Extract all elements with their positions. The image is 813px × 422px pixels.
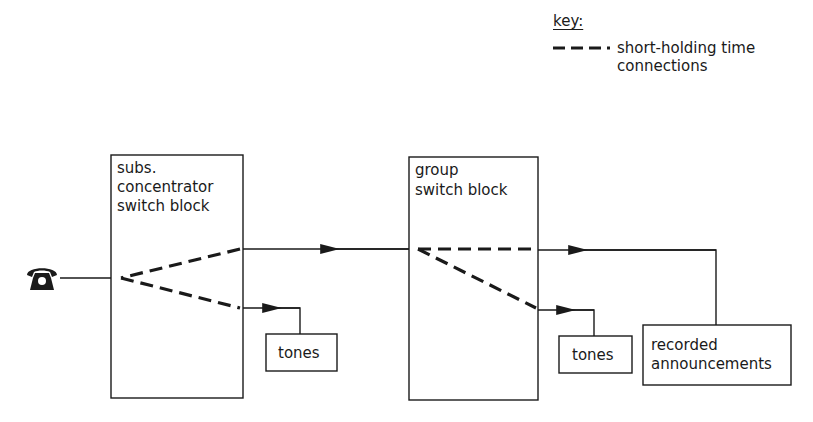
subs-label-line2: concentrator (117, 178, 213, 196)
key-label-line1: short-holding time (617, 39, 755, 57)
key-title: key: (553, 12, 583, 30)
tones-left-label: tones (278, 344, 320, 362)
group-label-line1: group (415, 161, 459, 179)
tones-right-label: tones (572, 346, 614, 364)
group-label-line2: switch block (415, 181, 507, 199)
recorded-label-line1: recorded (651, 336, 718, 354)
recorded-label-line2: announcements (651, 355, 772, 373)
subs-label-line1: subs. (117, 159, 156, 177)
key-label-line2: connections (617, 57, 707, 75)
subs-label-line3: switch block (117, 197, 209, 215)
telephone-icon (27, 268, 57, 290)
